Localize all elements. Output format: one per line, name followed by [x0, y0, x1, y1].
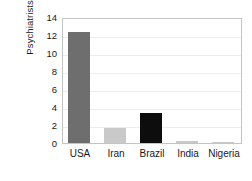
y-tick-label: 14: [46, 13, 57, 23]
y-tick-label: 12: [46, 31, 57, 41]
x-tick-label-usa: USA: [62, 147, 98, 160]
y-tick-label: 2: [52, 121, 57, 131]
x-tick-label-nigeria: Nigeria: [206, 147, 242, 160]
bar-slot: [207, 19, 243, 143]
y-tick-label: 10: [46, 49, 57, 59]
x-tick-label-brazil: Brazil: [134, 147, 170, 160]
y-tick-label: 4: [52, 103, 57, 113]
plot-area: [62, 18, 242, 144]
bar-slot: [171, 19, 207, 143]
y-tick-label: 8: [52, 67, 57, 77]
x-axis-tick-labels: USAIranBrazilIndiaNigeria: [62, 147, 242, 163]
bars-layer: [63, 19, 241, 143]
bar-slot: [135, 19, 171, 143]
bar-usa[interactable]: [68, 32, 90, 143]
bar-brazil[interactable]: [140, 113, 162, 143]
bar-chart: Psychiatrists per 100,000 people 0246810…: [0, 0, 252, 181]
y-tick-label: 0: [52, 139, 57, 149]
y-tick-label: 6: [52, 85, 57, 95]
bar-india[interactable]: [176, 141, 198, 143]
x-tick-label-iran: Iran: [98, 147, 134, 160]
y-axis-tick-labels: 02468101214: [33, 18, 57, 144]
bar-nigeria[interactable]: [212, 142, 234, 143]
bar-iran[interactable]: [104, 128, 126, 143]
bar-slot: [99, 19, 135, 143]
x-tick-label-india: India: [170, 147, 206, 160]
bar-slot: [63, 19, 99, 143]
